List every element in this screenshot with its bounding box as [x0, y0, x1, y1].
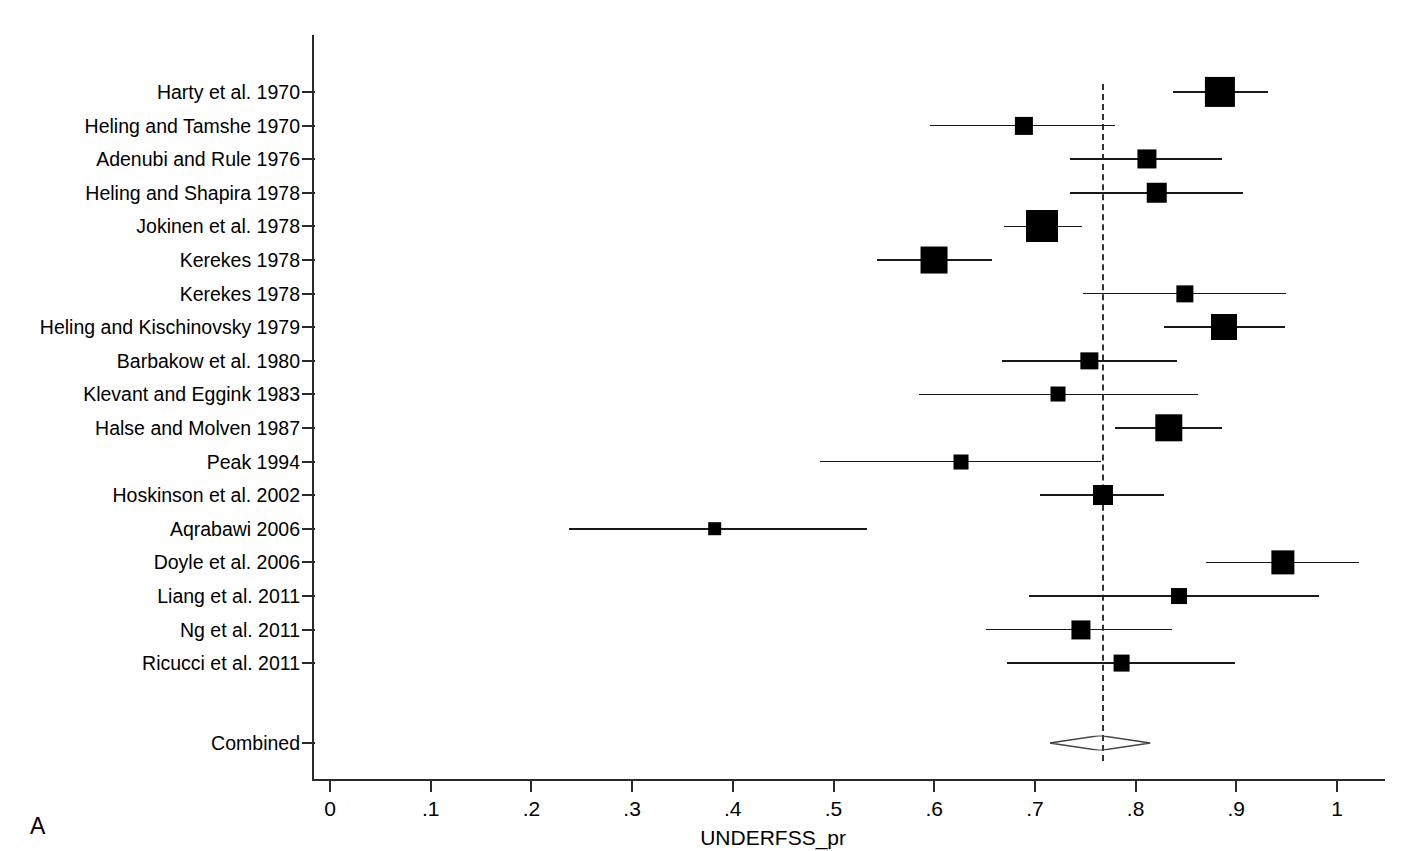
y-axis-tick	[302, 91, 315, 93]
y-axis-tick	[302, 595, 315, 597]
panel-letter: A	[30, 814, 45, 838]
x-axis-tick-label: .9	[1228, 798, 1246, 819]
combined-label: Combined	[0, 733, 300, 753]
y-axis-tick-combined	[302, 742, 315, 744]
study-label: Peak 1994	[0, 452, 300, 472]
x-axis-title: UNDERFSS_pr	[700, 827, 846, 849]
study-label: Kerekes 1978	[0, 284, 300, 304]
y-axis-tick	[302, 192, 315, 194]
y-axis-tick	[302, 360, 315, 362]
study-label: Doyle et al. 2006	[0, 552, 300, 572]
x-axis-tick	[732, 781, 734, 792]
x-axis-tick-label: 1	[1331, 798, 1343, 819]
point-estimate-marker	[1051, 387, 1066, 402]
x-axis-line	[312, 779, 1385, 781]
x-axis-tick-label: .3	[623, 798, 641, 819]
x-axis-tick	[833, 781, 835, 792]
y-axis-tick	[302, 528, 315, 530]
study-label: Halse and Molven 1987	[0, 418, 300, 438]
x-axis-tick	[430, 781, 432, 792]
x-axis-tick	[631, 781, 633, 792]
point-estimate-marker	[1211, 314, 1237, 340]
study-label: Liang et al. 2011	[0, 586, 300, 606]
study-label: Ng et al. 2011	[0, 620, 300, 640]
point-estimate-marker	[1113, 655, 1130, 672]
point-estimate-marker	[1026, 210, 1058, 242]
x-axis-tick-label: .1	[422, 798, 440, 819]
x-axis-tick-label: .8	[1127, 798, 1145, 819]
point-estimate-marker	[1093, 485, 1113, 505]
y-axis-tick	[302, 494, 315, 496]
point-estimate-marker	[1146, 183, 1167, 204]
study-label: Klevant and Eggink 1983	[0, 384, 300, 404]
y-axis-tick	[302, 393, 315, 395]
study-label: Heling and Shapira 1978	[0, 183, 300, 203]
x-axis-tick-label: .7	[1026, 798, 1044, 819]
y-axis-tick	[302, 662, 315, 664]
x-axis-tick	[933, 781, 935, 792]
point-estimate-marker	[1171, 588, 1187, 604]
study-label: Heling and Tamshe 1970	[0, 116, 300, 136]
point-estimate-marker	[921, 247, 948, 274]
y-axis-tick	[302, 561, 315, 563]
y-axis-tick	[302, 259, 315, 261]
point-estimate-marker	[954, 454, 969, 469]
y-axis-tick	[302, 629, 315, 631]
forest-plot-figure: 0.1.2.3.4.5.6.7.8.91Harty et al. 1970Hel…	[0, 0, 1415, 851]
y-axis-tick	[302, 125, 315, 127]
study-label: Aqrabawi 2006	[0, 519, 300, 539]
x-axis-tick	[1135, 781, 1137, 792]
point-estimate-marker	[1205, 77, 1235, 107]
y-axis-tick	[302, 326, 315, 328]
study-label: Kerekes 1978	[0, 250, 300, 270]
x-axis-tick	[530, 781, 532, 792]
x-axis-tick-label: .2	[523, 798, 541, 819]
x-axis-tick	[1034, 781, 1036, 792]
point-estimate-marker	[1072, 620, 1091, 639]
study-label: Hoskinson et al. 2002	[0, 485, 300, 505]
reference-line	[1102, 84, 1104, 761]
study-label: Heling and Kischinovsky 1979	[0, 317, 300, 337]
point-estimate-marker	[708, 522, 722, 536]
y-axis-tick	[302, 158, 315, 160]
study-label: Ricucci et al. 2011	[0, 653, 300, 673]
x-axis-tick-label: .6	[925, 798, 943, 819]
x-axis-tick-label: 0	[324, 798, 336, 819]
point-estimate-marker	[1015, 117, 1033, 135]
point-estimate-marker	[1176, 285, 1193, 302]
study-label: Harty et al. 1970	[0, 82, 300, 102]
point-estimate-marker	[1155, 414, 1182, 441]
y-axis-tick	[302, 427, 315, 429]
y-axis-tick	[302, 461, 315, 463]
x-axis-tick	[1336, 781, 1338, 792]
point-estimate-marker	[1081, 352, 1098, 369]
x-axis-tick-label: .4	[724, 798, 742, 819]
study-label: Barbakow et al. 1980	[0, 351, 300, 371]
y-axis-tick	[302, 293, 315, 295]
point-estimate-marker	[1271, 551, 1294, 574]
y-axis-line	[312, 35, 314, 779]
study-label: Jokinen et al. 1978	[0, 216, 300, 236]
study-label: Adenubi and Rule 1976	[0, 149, 300, 169]
x-axis-tick-label: .5	[825, 798, 843, 819]
x-axis-tick	[329, 781, 331, 792]
point-estimate-marker	[1137, 150, 1156, 169]
combined-diamond	[1050, 736, 1151, 751]
x-axis-tick	[1235, 781, 1237, 792]
y-axis-tick	[302, 225, 315, 227]
